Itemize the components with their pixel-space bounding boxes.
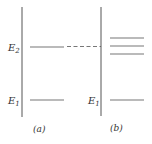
panel-b: E1 (b) <box>87 7 144 133</box>
label-e1-b: E1 <box>87 95 100 108</box>
caption-b: (b) <box>110 123 123 133</box>
label-e1-a: E1 <box>7 95 20 108</box>
energy-level-diagram: E2 E1 (a) E1 (b) <box>0 0 152 144</box>
panel-a: E2 E1 (a) <box>7 7 64 134</box>
label-e2-a: E2 <box>7 42 20 55</box>
caption-a: (a) <box>33 124 46 134</box>
